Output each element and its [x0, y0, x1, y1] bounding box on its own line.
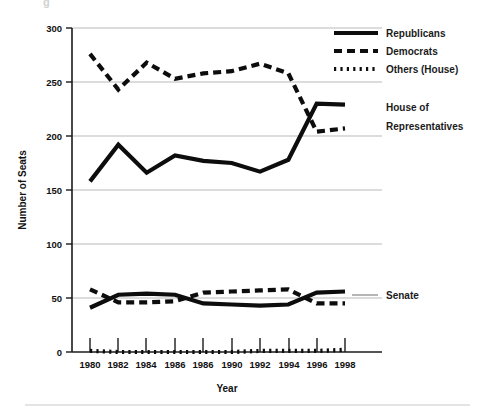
legend-label-republicans: Republicans	[386, 28, 446, 39]
x-tick-9: 1996	[306, 359, 327, 370]
x-tick-2: 1982	[107, 359, 128, 370]
annotation-senate: Senate	[352, 290, 419, 301]
line-chart: 0 50 100 150 200 250 300 Number of Seats…	[0, 0, 492, 419]
x-tick-8: 1994	[278, 359, 300, 370]
annotation-senate-line1: Senate	[386, 290, 419, 301]
annotation-house-line1: House of	[386, 102, 429, 113]
x-tick-10: 1998	[334, 359, 355, 370]
y-tick-50: 50	[51, 293, 62, 304]
y-tick-150: 150	[46, 185, 62, 196]
x-tick-1: 1980	[79, 359, 100, 370]
annotation-house-line2: Representatives	[386, 121, 464, 132]
figure-canvas: g 0 50 100	[0, 0, 492, 419]
x-tick-marks	[90, 338, 345, 352]
series-layer	[90, 54, 345, 352]
x-axis-tick-labels: 1980 1982 1984 1986 1986 1990 1992 1994 …	[79, 359, 355, 370]
y-tick-0: 0	[57, 347, 62, 358]
y-tick-200: 200	[46, 131, 62, 142]
chart-legend: Republicans Democrats Others (House)	[334, 28, 458, 75]
x-tick-3: 1984	[135, 359, 157, 370]
x-tick-7: 1992	[249, 359, 270, 370]
legend-label-others-house: Others (House)	[386, 64, 458, 75]
y-tick-marks	[66, 28, 72, 352]
y-tick-100: 100	[46, 239, 62, 250]
x-tick-4: 1986	[164, 359, 185, 370]
x-tick-5: 1986	[192, 359, 213, 370]
y-axis-title: Number of Seats	[17, 150, 28, 230]
annotation-house: House of Representatives	[386, 102, 464, 132]
x-axis-title: Year	[216, 383, 237, 394]
y-tick-250: 250	[46, 77, 62, 88]
y-axis-tick-labels: 0 50 100 150 200 250 300	[46, 23, 62, 358]
legend-label-democrats: Democrats	[386, 46, 438, 57]
y-tick-300: 300	[46, 23, 62, 34]
x-tick-6: 1990	[221, 359, 242, 370]
